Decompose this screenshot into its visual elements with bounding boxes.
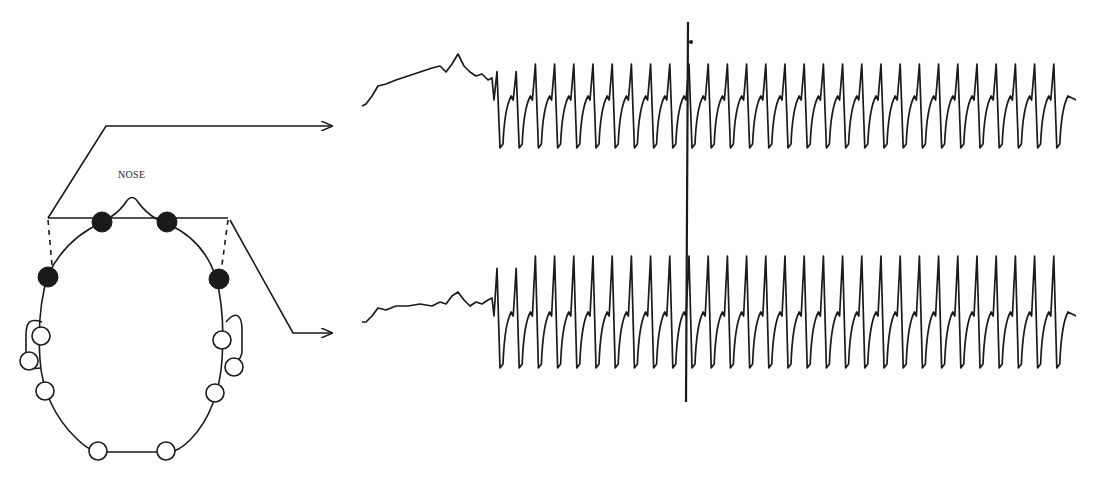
electrode-right-occipital	[157, 442, 175, 460]
eeg-figure: NOSE	[0, 0, 1093, 502]
event-marker-line	[686, 22, 688, 402]
nose-label: NOSE	[118, 169, 145, 180]
inactive-electrodes	[20, 327, 243, 460]
active-electrodes	[38, 212, 229, 289]
right-dashed-drop	[222, 220, 228, 265]
arrow-to-bottom-trace	[230, 220, 332, 333]
arrow-to-top-trace	[48, 126, 332, 218]
head-outline	[26, 198, 242, 453]
electrode-left-temporal	[32, 327, 50, 345]
electrode-right-ear	[225, 358, 243, 376]
eeg-trace-top	[362, 54, 1076, 148]
electrode-left-anterior-temporal	[38, 267, 58, 287]
electrode-right-posterior-temporal	[206, 384, 224, 402]
electrode-left-occipital	[89, 442, 107, 460]
electrode-left-ear	[20, 352, 38, 370]
left-dashed-drop	[48, 220, 52, 265]
electrode-right-frontal	[157, 212, 177, 232]
electrode-right-temporal	[213, 331, 231, 349]
event-marker-dot	[689, 40, 693, 44]
electrode-left-frontal	[92, 212, 112, 232]
electrode-left-posterior-temporal	[36, 382, 54, 400]
electrode-right-anterior-temporal	[209, 269, 229, 289]
eeg-trace-bottom	[362, 256, 1076, 368]
